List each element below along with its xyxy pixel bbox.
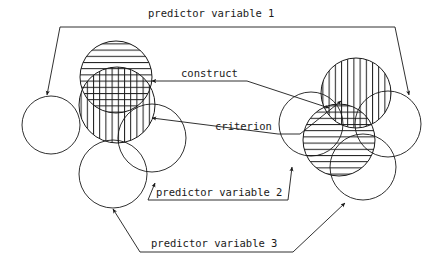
label-predictor-variable-1: predictor variable 1 [148, 7, 274, 19]
leader-pv3-left-leg [113, 209, 140, 252]
left-circle-predictor-3 [79, 140, 147, 208]
label-predictor-variable-2: predictor variable 2 [156, 186, 282, 198]
leader-pv3-right-leg [293, 203, 345, 252]
leader-pv2-left-leg [148, 183, 155, 200]
leader-construct [152, 81, 329, 108]
diagram-canvas: predictor variable 1 construct criterion… [0, 0, 440, 269]
left-circle-predictor-1 [22, 96, 80, 154]
label-construct: construct [181, 67, 238, 79]
label-predictor-variable-3: predictor variable 3 [151, 237, 277, 249]
leader-construct-right [247, 81, 329, 108]
right-cluster [279, 57, 421, 200]
leader-pv1-right-leg [395, 27, 409, 95]
leader-pv1-left-leg [47, 27, 60, 95]
venn-diagram-figure: predictor variable 1 construct criterion… [0, 0, 440, 269]
leader-pv2-right-leg [288, 167, 292, 200]
label-criterion: criterion [215, 120, 272, 132]
left-cluster [22, 39, 186, 208]
